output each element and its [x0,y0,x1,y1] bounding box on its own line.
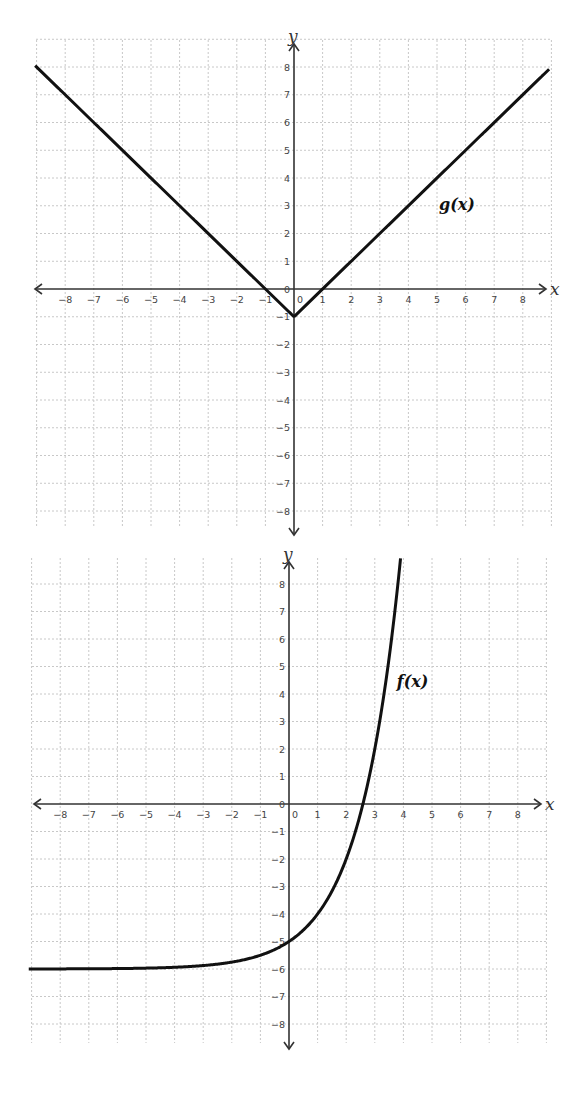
x-tick-label: 4 [400,809,406,820]
x-tick-label: 1 [320,294,326,305]
x-tick-label: −2 [230,294,244,305]
x-tick-label: 7 [491,294,497,305]
y-tick-label: −2 [276,339,290,350]
y-tick-label: 6 [279,634,285,645]
function-label: g(x) [439,195,475,214]
x-axis-label: x [545,794,555,814]
y-tick-label: −8 [271,1019,285,1030]
x-tick-label: −6 [110,809,124,820]
x-tick-label: 2 [348,294,354,305]
y-tick-label: −8 [276,506,290,517]
x-tick-label: 5 [429,809,435,820]
graph-g: xy−8−7−6−5−4−3−2−1012345678−8−7−6−5−4−3−… [35,26,560,535]
x-tick-label: −7 [87,294,101,305]
y-tick-label: 7 [279,606,285,617]
x-tick-label: 5 [434,294,440,305]
x-tick-label: −1 [253,809,267,820]
y-tick-label: 8 [284,62,290,73]
y-tick-label: 8 [279,579,285,590]
x-tick-label: −5 [144,294,158,305]
x-tick-label: −6 [115,294,129,305]
y-tick-label: 1 [279,771,285,782]
y-tick-label: 2 [279,744,285,755]
x-tick-label: −4 [168,809,182,820]
x-tick-label: −2 [225,809,239,820]
x-tick-label: −4 [173,294,187,305]
x-tick-label: 3 [372,809,378,820]
x-tick-label: −8 [58,294,72,305]
y-axis-label: y [282,544,293,564]
y-tick-label: 1 [284,256,290,267]
y-tick-label: 4 [284,173,290,184]
y-tick-label: 5 [279,661,285,672]
y-tick-label: −3 [271,881,285,892]
x-tick-label: −8 [53,809,67,820]
x-tick-label: 6 [463,294,469,305]
x-tick-label: 2 [343,809,349,820]
y-tick-label: 7 [284,89,290,100]
y-tick-label: 4 [279,689,285,700]
y-tick-label: −1 [271,826,285,837]
axes: xy [34,544,555,1049]
x-tick-label: 8 [515,809,521,820]
y-tick-label: 5 [284,145,290,156]
axes: xy [35,26,560,535]
x-tick-label: 4 [405,294,411,305]
x-tick-label: −3 [196,809,210,820]
y-tick-label: 6 [284,117,290,128]
y-tick-label: −3 [276,367,290,378]
y-tick-label: −2 [271,854,285,865]
y-tick-label: −4 [276,395,290,406]
x-tick-label: 8 [520,294,526,305]
graph-f: xy−8−7−6−5−4−3−2−1012345678−8−7−6−5−4−3−… [29,544,555,1049]
chart-canvas: xy−8−7−6−5−4−3−2−1012345678−8−7−6−5−4−3−… [0,0,581,1093]
function-curve [29,558,401,968]
x-tick-label: −7 [82,809,96,820]
y-tick-label: −4 [271,909,285,920]
y-tick-label: −6 [271,964,285,975]
x-tick-label: 7 [486,809,492,820]
x-tick-label: −3 [201,294,215,305]
x-tick-label: 0 [297,294,303,305]
y-tick-label: 2 [284,228,290,239]
y-axis-label: y [287,26,298,46]
x-tick-label: −5 [139,809,153,820]
function-curve [35,66,549,317]
y-tick-label: −6 [276,450,290,461]
x-tick-label: 6 [458,809,464,820]
y-tick-label: −7 [276,478,290,489]
x-tick-label: 1 [315,809,321,820]
x-axis-label: x [550,279,560,299]
function-label: f(x) [396,672,429,691]
y-tick-label: −5 [276,422,290,433]
x-tick-label: 3 [377,294,383,305]
y-tick-label: 3 [279,716,285,727]
y-tick-label: 3 [284,200,290,211]
y-tick-label: 0 [284,284,290,295]
x-tick-label: 0 [292,809,298,820]
y-tick-label: 0 [279,799,285,810]
y-tick-label: −7 [271,991,285,1002]
